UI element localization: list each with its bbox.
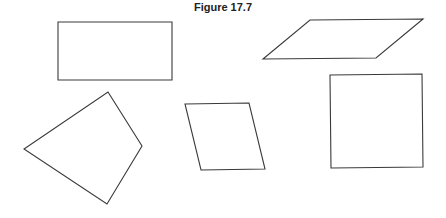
square-shape bbox=[330, 74, 423, 168]
quadrilateral-shape bbox=[24, 92, 142, 204]
rectangle-shape bbox=[58, 22, 172, 80]
figure-canvas bbox=[0, 0, 446, 218]
rhombus-shape bbox=[185, 103, 265, 170]
parallelogram-shape bbox=[263, 19, 423, 59]
